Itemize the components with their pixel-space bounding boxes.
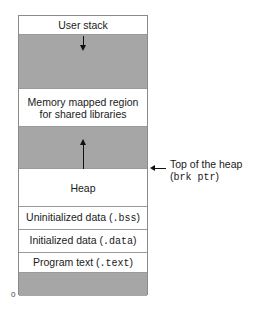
left-arrow-icon <box>153 168 166 169</box>
region-user-stack: User stack <box>19 16 147 35</box>
region-heap-growth-gap <box>19 127 147 169</box>
address-zero-label: 0 <box>11 290 15 299</box>
region-label: Initialized data (.data) <box>29 234 136 248</box>
region-label: Program text (.text) <box>33 256 133 270</box>
down-arrow-icon <box>83 36 84 48</box>
region-bss: Uninitialized data (.bss) <box>19 207 147 230</box>
region-heap: Heap <box>19 169 147 207</box>
up-arrow-icon <box>83 140 84 169</box>
heap-top-annotation: Top of the heap (brk ptr) <box>170 158 242 184</box>
region-data: Initialized data (.data) <box>19 230 147 253</box>
region-memory-mapped: Memory mapped region for shared librarie… <box>19 89 147 127</box>
region-text: Program text (.text) <box>19 253 147 273</box>
region-stack-growth-gap <box>19 35 147 89</box>
region-reserved <box>19 273 147 296</box>
region-label: Uninitialized data (.bss) <box>26 211 140 225</box>
region-label: Heap <box>70 182 95 194</box>
memory-layout-stack: User stack Memory mapped region for shar… <box>18 15 148 295</box>
region-label: Memory mapped region for shared librarie… <box>28 96 139 120</box>
region-label: User stack <box>58 19 108 31</box>
